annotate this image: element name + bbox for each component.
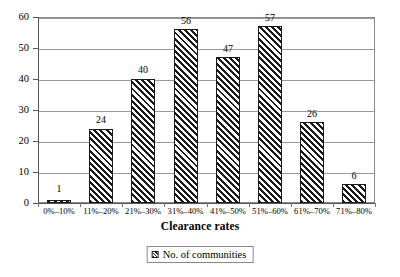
hatched-swatch-icon [152,251,159,258]
bar-value-2: 40 [131,65,155,75]
y-tick-40 [33,79,39,80]
bar-6 [300,122,324,203]
bar-1 [89,129,113,203]
bar-0 [47,200,71,203]
bar-value-4: 47 [216,44,240,54]
y-axis-label-10: 10 [19,167,30,177]
bar-value-7: 6 [342,171,366,181]
bar-3 [174,29,198,203]
y-axis-label-20: 20 [19,136,30,146]
y-axis-label-60: 60 [19,12,30,22]
bar-value-3: 56 [174,16,198,26]
y-tick-10 [33,172,39,173]
x-axis-label-7: 71%–80% [333,206,375,217]
gridline-40 [39,80,374,81]
gridline-50 [39,49,374,50]
x-axis-label-3: 31%–40% [164,206,207,217]
bar-7 [342,184,366,203]
bar-5 [258,26,282,203]
bar-chart: 60 50 40 30 20 10 0 1 24 40 56 47 57 26 … [0,0,400,277]
y-axis-label-0: 0 [24,198,29,208]
gridline-60 [39,18,374,19]
x-tick-8 [375,203,376,207]
legend-entry-label: No. of communities [163,249,247,260]
bar-value-1: 24 [89,115,113,125]
y-axis-label-40: 40 [19,74,30,84]
bar-value-6: 26 [300,109,324,119]
bar-2 [131,79,155,203]
x-axis-label-4: 41%–50% [207,206,249,217]
y-tick-50 [33,48,39,49]
chart-legend: No. of communities [147,246,254,263]
x-axis-label-2: 21%–30% [122,206,164,217]
y-axis-label-50: 50 [19,43,30,53]
x-axis-label-1: 11%–20% [80,206,122,217]
bar-value-0: 1 [47,184,71,194]
bar-4 [216,57,240,203]
bar-value-5: 57 [258,13,282,23]
y-tick-60 [33,17,39,18]
x-axis-label-5: 51%–60% [249,206,291,217]
x-axis-label-6: 61%–70% [291,206,333,217]
y-tick-30 [33,110,39,111]
y-axis-label-30: 30 [19,105,30,115]
x-axis-label-0: 0%–10% [38,206,80,217]
x-axis-title: Clearance rates [0,220,400,232]
y-tick-20 [33,141,39,142]
